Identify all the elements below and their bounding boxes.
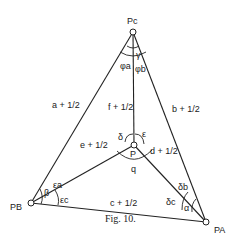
- vertex-pb-marker: [28, 200, 34, 206]
- edge-b: [133, 32, 206, 222]
- edge-e-label: e + 1/2: [80, 140, 108, 150]
- angle-delta-b-label: δb: [178, 182, 188, 192]
- arc-pb-outer: [55, 190, 59, 205]
- edge-c-label: c + 1/2: [110, 198, 137, 208]
- angle-alpha-label: α: [184, 203, 189, 213]
- edge-b-label: b + 1/2: [172, 104, 200, 114]
- arc-delta: [125, 134, 133, 142]
- angle-delta-c-label: δc: [166, 197, 176, 207]
- angle-gamma-label: γ: [136, 50, 141, 60]
- vertex-pc-marker: [130, 29, 136, 35]
- edge-d-label: d + 1/2: [150, 146, 178, 156]
- angle-delta-label: δ: [118, 132, 123, 142]
- figure-caption: Fig. 10.: [105, 213, 136, 224]
- edge-f: [133, 32, 134, 145]
- edge-d: [134, 145, 206, 222]
- vertex-pb-label: PB: [10, 202, 22, 212]
- edge-a: [31, 32, 133, 203]
- edge-f-label: f + 1/2: [108, 102, 133, 112]
- edge-a-label: a + 1/2: [52, 100, 80, 110]
- arc-beta: [40, 189, 42, 204]
- angle-phi-b-label: φb: [135, 64, 146, 74]
- angle-beta-label: β: [44, 188, 49, 198]
- vertex-pc-label: Pc: [127, 16, 138, 26]
- vertex-p-marker: [131, 142, 137, 148]
- vertex-pa-label: PA: [214, 225, 225, 235]
- triangle-diagram: Pc PB PA P a + 1/2 b + 1/2 c + 1/2 d + 1…: [0, 0, 239, 238]
- vertex-pa-marker: [203, 219, 209, 225]
- angle-q-label: q: [131, 164, 136, 174]
- angle-phi-a-label: φa: [120, 61, 131, 71]
- angle-eps-a-label: εa: [53, 180, 62, 190]
- angle-epsilon-label: ε: [142, 129, 146, 139]
- angle-eps-c-label: εc: [60, 195, 69, 205]
- vertex-p-label: P: [130, 149, 136, 159]
